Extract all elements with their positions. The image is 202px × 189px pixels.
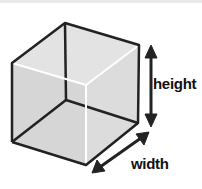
cube-faces [12,23,139,165]
cube-diagram [0,0,202,189]
width-label: width [131,155,169,172]
height-label: height [153,75,196,92]
